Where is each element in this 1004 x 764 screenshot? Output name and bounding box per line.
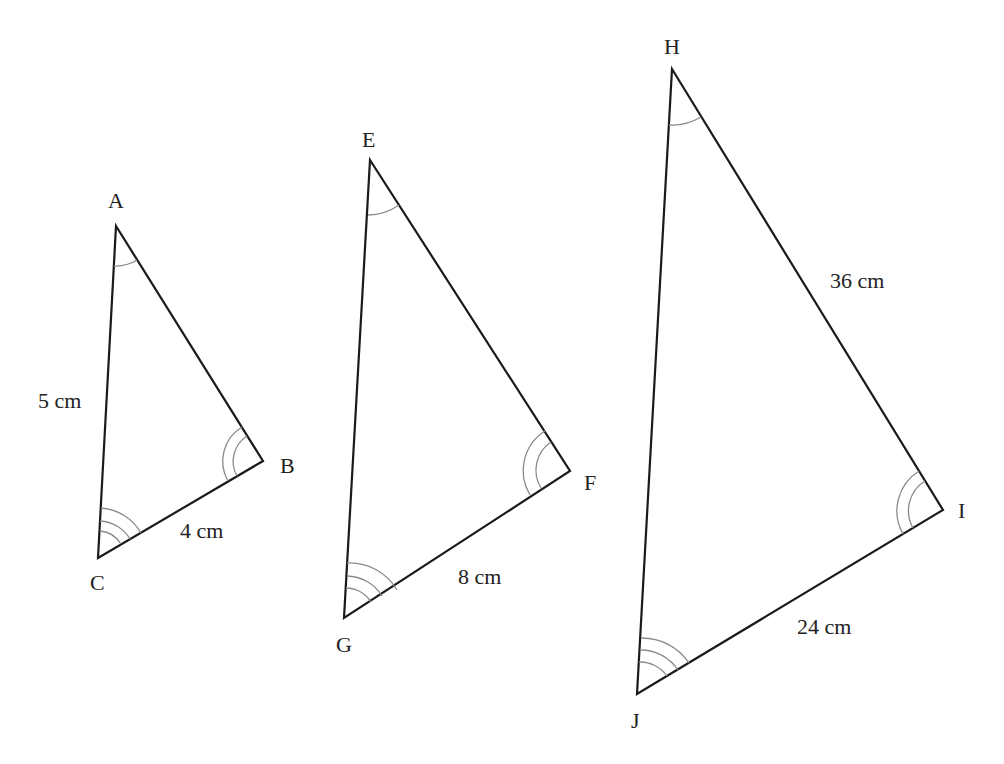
- triangle-hij: H I J 36 cm 24 cm: [631, 34, 965, 733]
- angle-e-single-arc: [368, 205, 399, 215]
- angle-f-arc-outer: [523, 431, 545, 495]
- angle-j-arc-1: [639, 662, 667, 676]
- angle-b-arc-outer: [223, 427, 242, 481]
- triangle-efg: E F G 8 cm: [336, 127, 596, 657]
- triangle-abc: A B C 5 cm 4 cm: [38, 188, 295, 595]
- angle-i-arc-inner: [908, 481, 925, 528]
- side-label-cb: 4 cm: [180, 518, 223, 543]
- angle-g-arc-1: [346, 588, 371, 602]
- angle-j-arc-2: [640, 650, 678, 670]
- angle-i-arc-outer: [897, 471, 919, 534]
- vertex-label-j: J: [631, 708, 640, 733]
- side-label-gf: 8 cm: [458, 564, 501, 589]
- side-label-hi: 36 cm: [830, 268, 884, 293]
- similar-triangles-diagram: A B C 5 cm 4 cm E F G 8 cm H I J: [0, 0, 1004, 764]
- angle-f-arc-inner: [536, 442, 551, 488]
- vertex-label-b: B: [280, 453, 295, 478]
- angle-a-single-arc: [114, 260, 137, 266]
- vertex-label-f: F: [584, 470, 596, 495]
- angle-c-arc-1: [100, 531, 121, 544]
- side-label-ji: 24 cm: [797, 614, 851, 639]
- vertex-label-g: G: [336, 632, 352, 657]
- angle-b-arc-inner: [233, 436, 247, 476]
- side-label-ac: 5 cm: [38, 388, 81, 413]
- angle-g-arc-2: [347, 576, 382, 596]
- angle-h-single-arc: [669, 117, 701, 125]
- vertex-label-e: E: [362, 127, 375, 152]
- vertex-label-c: C: [90, 570, 105, 595]
- vertex-label-i: I: [958, 498, 965, 523]
- triangle-efg-outline: [344, 160, 570, 618]
- triangle-abc-outline: [98, 226, 263, 558]
- triangle-hij-outline: [637, 69, 943, 694]
- vertex-label-h: H: [664, 34, 680, 59]
- vertex-label-a: A: [108, 188, 124, 213]
